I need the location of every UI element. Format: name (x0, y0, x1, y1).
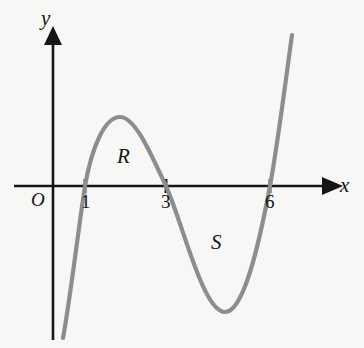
figure-container: y x O 1 3 6 R S (0, 0, 364, 348)
x-axis-label: x (340, 175, 349, 196)
origin-label: O (31, 190, 45, 209)
tick-label-3: 3 (161, 192, 171, 211)
tick-label-6: 6 (265, 192, 275, 211)
region-label-r: R (117, 146, 130, 167)
graph-canvas (0, 0, 364, 348)
tick-label-1: 1 (81, 192, 91, 211)
y-axis-label: y (41, 8, 50, 29)
region-label-s: S (211, 232, 222, 253)
